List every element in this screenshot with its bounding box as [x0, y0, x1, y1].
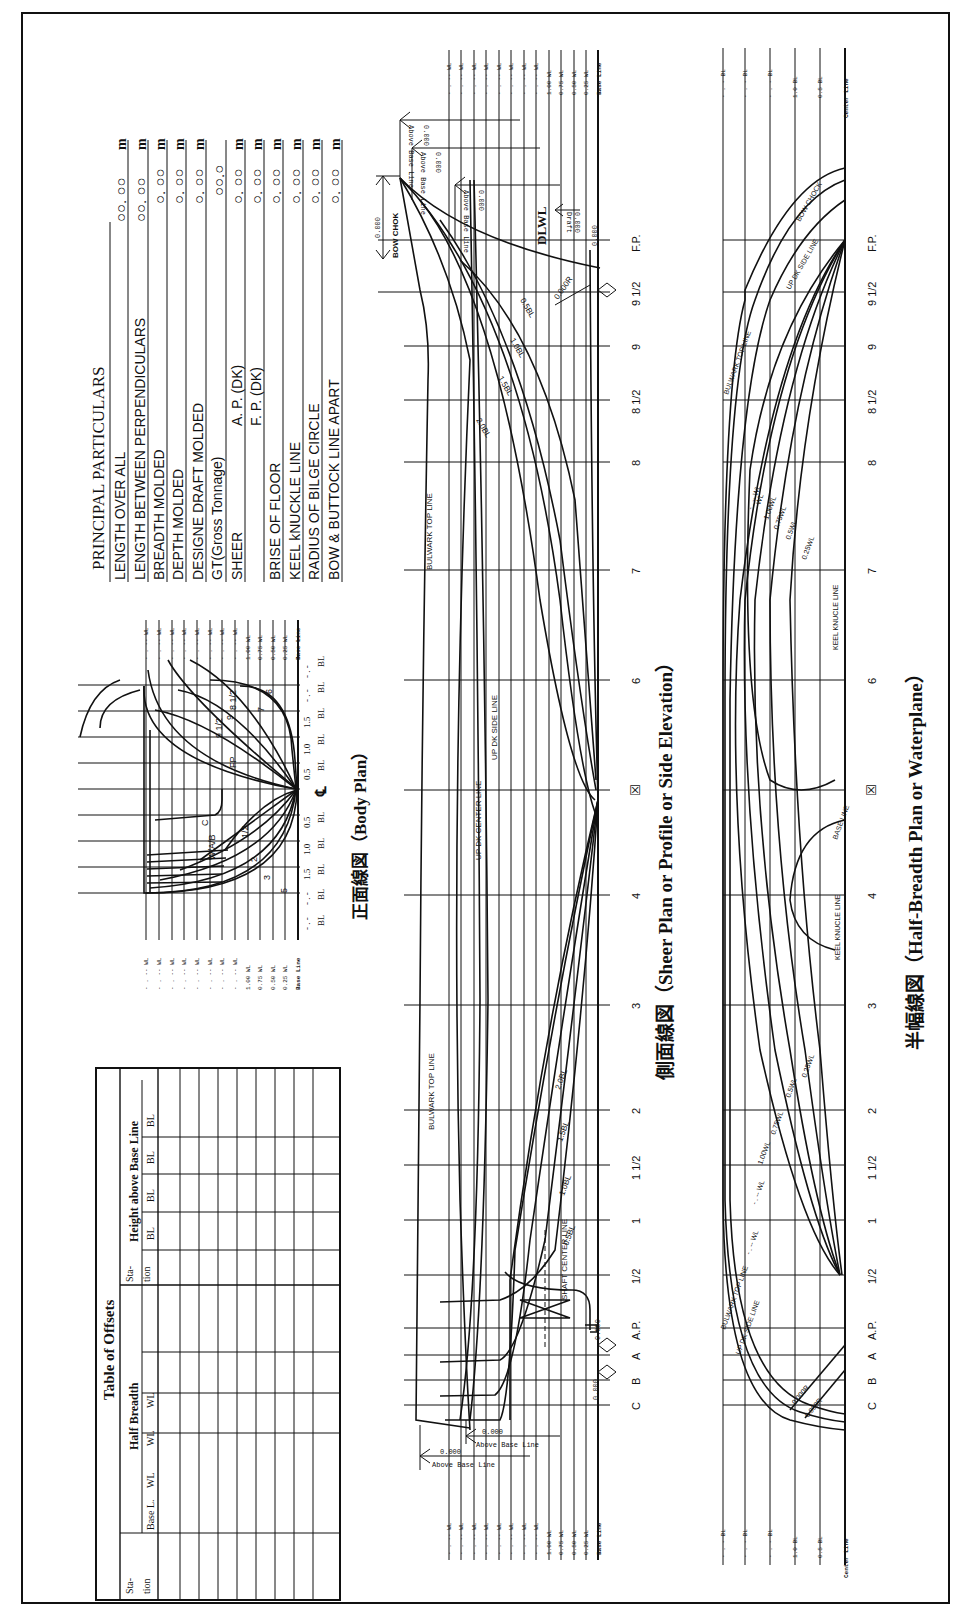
label-bulwark-top-aft: BULWARK TOP LINE — [427, 1053, 436, 1130]
unit-m: m — [250, 138, 265, 150]
label-keel-knuckle-fwd: KEEL KNUCLE LINE — [832, 584, 839, 650]
station-label-9: 9 — [225, 715, 235, 720]
center-line-label: Center Line — [843, 78, 850, 118]
half-breadth-plan: BOW CHOCK UP DK SIDE LINE BULWARK TOP LI… — [719, 48, 926, 1578]
dim-aft-above-1-label: Above Base Line — [476, 1441, 539, 1449]
bl-suffix: BL — [316, 888, 326, 900]
particular-sub-ap: A. P. (DK) — [229, 365, 245, 426]
particular-label-draft: DESIGNE DRAFT MOLDED — [190, 403, 206, 580]
wl-label: - . -- WL — [169, 957, 176, 990]
half-breadth-stations — [723, 240, 845, 1405]
wl-label: - . -- WL — [219, 627, 226, 660]
wl-label: - . -- WL — [521, 62, 528, 95]
wl-label: 0.50 WL — [571, 69, 578, 95]
particular-value-sheer-ap: ○. ○○ — [229, 168, 246, 204]
label-wl-aft: 0.25WL — [800, 1053, 815, 1078]
hb-col-baseline: Base L. — [145, 1499, 156, 1530]
wl-label: 0.75 WL — [257, 634, 264, 660]
wl-label: 0.75 WL — [558, 1529, 565, 1555]
wl-label: - . -- WL — [156, 627, 163, 660]
hb-station-4: 4 — [866, 893, 878, 899]
station-col-header: Sta- — [124, 1578, 135, 1594]
sheer-station-ap: A.P. — [630, 1321, 642, 1340]
ht-col-bl: BL — [145, 1151, 156, 1164]
dim-above-base-1-value: 0.000 — [422, 125, 430, 146]
dim-above-base-3-label: Above Base Line — [462, 190, 470, 253]
unit-m: m — [172, 138, 187, 150]
bl-label: 0.5 BL — [817, 1536, 824, 1558]
body-plan-buttocks — [78, 685, 300, 893]
wl-label: - . -- WL — [169, 627, 176, 660]
label-wl-aft: - . -- WL — [744, 1229, 759, 1255]
bl-suffix: BL — [316, 681, 326, 693]
bl-suffix: BL — [316, 759, 326, 771]
sheer-station-6: 6 — [630, 678, 642, 684]
sheer-station-8-5: 8 1/2 — [630, 390, 642, 414]
wl-label: 0.25 WL — [282, 634, 289, 660]
bl-label: - . - BL — [742, 1529, 749, 1558]
wl-label: 1.00 WL — [245, 634, 252, 660]
dim-above-base-3-value: 0.000 — [477, 190, 485, 211]
station-col-header: tion — [141, 1266, 152, 1282]
dim-draft-value: 0.000 — [573, 212, 581, 233]
base-line-label: Base Line — [295, 627, 302, 660]
particular-value-loa: ○○. ○○ — [112, 177, 129, 222]
station-label-c: C — [200, 819, 210, 826]
particular-label-rise-floor: BRISE OF FLOOR — [267, 463, 283, 580]
hb-station-2: 2 — [866, 1108, 878, 1114]
bl-suffix: BL — [316, 914, 326, 926]
ht-col-bl: BL — [145, 1114, 156, 1127]
label-wl-fwd: 0.75WL — [772, 505, 787, 530]
hb-station-9-5: 9 1/2 — [866, 282, 878, 306]
particular-label-bilge-radius: RADIUS OF BILGE CIRCLE — [306, 403, 322, 580]
hb-station-a: A — [866, 1352, 878, 1360]
height-header: Height above Base Line — [127, 1120, 141, 1242]
bl-value: - . - — [302, 665, 312, 678]
sheer-station-0-5: 1/2 — [630, 1269, 642, 1284]
sheer-station-1: 1 — [630, 1218, 642, 1224]
particular-label-breadth: BREADTH MOLDED — [151, 449, 167, 580]
station-label-aft-group: W/A/B — [207, 834, 217, 860]
particular-sub-fp: F. P. (DK) — [248, 367, 264, 426]
particular-value-lbp: ○○. ○○ — [132, 177, 149, 222]
wl-label: - . -- WL — [446, 1522, 453, 1555]
hb-station-8: 8 — [866, 460, 878, 466]
wl-label: - . -- WL — [471, 62, 478, 95]
ht-col-bl: BL — [145, 1227, 156, 1240]
bl-label: - . - BL — [720, 69, 727, 98]
hb-col-wl: WL — [145, 1430, 156, 1446]
dim-aft-above-2-label: Above Base Line — [432, 1461, 495, 1469]
station-col-header: tion — [141, 1578, 152, 1594]
wl-label: - . -- WL — [521, 1522, 528, 1555]
particular-value-gt: ○○.○ — [210, 165, 227, 196]
hb-station-1-5: 1 1/2 — [866, 1156, 878, 1180]
base-line-label: Base Line — [596, 1522, 603, 1555]
unit-m: m — [269, 138, 284, 150]
station-label-2: 2 — [249, 857, 259, 862]
wl-label: - . -- WL — [458, 1522, 465, 1555]
unit-m: m — [114, 138, 129, 150]
sheer-station-b: B — [630, 1378, 642, 1385]
hb-station-7: 7 — [866, 568, 878, 574]
particulars-title: PRINCIPAL PARTICULARS — [89, 366, 108, 570]
hb-col-wl: WL — [145, 1472, 156, 1488]
dim-draft-label: Draft — [565, 212, 573, 233]
wl-label: - . -- WL — [483, 62, 490, 95]
particular-value-bow-buttock: ○. ○○ — [326, 168, 343, 204]
base-line-label: Base Line — [596, 62, 603, 95]
wl-label: - . -- WL — [194, 627, 201, 660]
wl-label: - . -- WL — [207, 627, 214, 660]
bl-value: 0.5 — [302, 768, 312, 780]
base-line-label: Base Line — [295, 957, 302, 990]
particular-label-depth: DEPTH MOLDED — [170, 469, 186, 580]
particular-value-breadth: ○. ○○ — [151, 168, 168, 204]
wl-label: - . -- WL — [232, 957, 239, 990]
bl-suffix: BL — [316, 837, 326, 849]
sheer-station-midship: ☒ — [628, 784, 643, 796]
body-plan: FP 9 1/2 9 8 1/2 7 6 C W/A/B 1/2 2 3 5 -… — [78, 620, 370, 990]
unit-m: m — [289, 138, 304, 150]
particular-value-sheer-fp: ○. ○○ — [248, 168, 265, 204]
wl-label: - . -- WL — [446, 62, 453, 95]
station-label-5: 5 — [279, 888, 289, 893]
label-bow-chok: BOW CHOK — [391, 212, 400, 258]
